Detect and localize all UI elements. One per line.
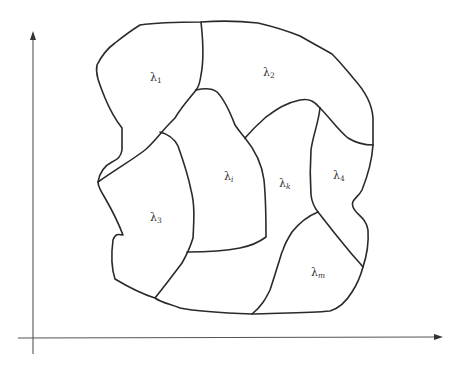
region-label-lambda-k: λk <box>279 178 291 191</box>
boundary-i-k <box>187 138 266 252</box>
lambda-symbol: λ <box>333 169 340 182</box>
boundary-2-4 <box>320 108 373 145</box>
lambda-subscript: 2 <box>270 71 275 80</box>
internal-boundaries <box>98 22 373 314</box>
x-axis-arrow-icon <box>434 334 443 340</box>
region-label-lambda-4: λ4 <box>333 170 345 183</box>
boundary-k-m <box>252 212 318 314</box>
region-partition-diagram <box>0 0 458 370</box>
lambda-symbol: λ <box>279 177 286 190</box>
lambda-subscript: i <box>231 175 233 184</box>
boundary-2-k <box>245 99 320 138</box>
region-label-lambda-3: λ3 <box>150 212 162 225</box>
region-label-lambda-2: λ2 <box>263 67 275 80</box>
region-label-lambda-i: λi <box>224 171 233 184</box>
lambda-subscript: 4 <box>340 174 345 183</box>
lambda-symbol: λ <box>150 71 157 84</box>
region-label-lambda-m: λm <box>311 267 325 280</box>
boundary-1-2 <box>196 22 203 90</box>
lambda-subscript: 3 <box>157 216 162 225</box>
y-axis-arrow-icon <box>30 31 36 40</box>
lambda-subscript: m <box>318 271 325 280</box>
region-label-lambda-1: λ1 <box>150 72 162 85</box>
outer-boundary <box>97 21 373 314</box>
boundary-4-m <box>318 212 363 267</box>
lambda-symbol: λ <box>311 266 318 279</box>
coordinate-axes <box>18 31 443 354</box>
lambda-symbol: λ <box>224 170 231 183</box>
boundary-k-4 <box>310 108 320 212</box>
x-axis <box>18 337 436 338</box>
boundary-2-i <box>196 89 245 138</box>
lambda-subscript: 1 <box>157 76 162 85</box>
boundary-1-lower <box>98 90 196 182</box>
lambda-symbol: λ <box>150 211 157 224</box>
lambda-subscript: k <box>286 182 291 191</box>
lambda-symbol: λ <box>263 66 270 79</box>
